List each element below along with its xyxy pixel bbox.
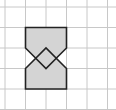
grid-shape-diagram	[0, 0, 116, 110]
shaded-shape	[26, 28, 67, 90]
